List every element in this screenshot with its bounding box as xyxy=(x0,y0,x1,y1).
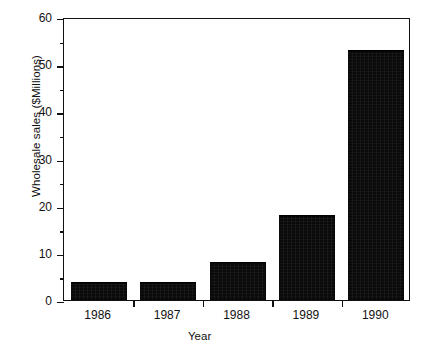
bar: 17.8 xyxy=(279,215,335,300)
bar-value: 17.8 xyxy=(279,216,280,217)
y-tick-mark xyxy=(57,302,64,303)
y-tick-mark xyxy=(60,231,65,232)
x-tick-label: 1986 xyxy=(63,308,133,322)
y-tick-mark xyxy=(60,137,65,138)
y-tick-label: 20 xyxy=(12,200,52,215)
y-tick-label: 60 xyxy=(12,11,52,26)
y-tick-mark xyxy=(60,278,65,279)
bar-value: 52.8 xyxy=(348,51,349,52)
y-tick-mark xyxy=(57,66,64,67)
bar: 7.8 xyxy=(210,262,266,300)
y-tick-label: 50 xyxy=(12,58,52,73)
y-tick-label: 30 xyxy=(12,153,52,168)
y-tick-label: 40 xyxy=(12,105,52,120)
y-tick-label: 0 xyxy=(12,294,52,309)
bar-value: 3.7 xyxy=(71,283,72,284)
bar: 3.7 xyxy=(71,282,127,300)
x-tick-mark xyxy=(133,300,135,307)
bar: 52.8 xyxy=(348,50,404,300)
y-tick-mark xyxy=(57,19,64,20)
x-tick-label: 1987 xyxy=(132,308,202,322)
y-tick-mark xyxy=(57,208,64,209)
x-tick-label: 1988 xyxy=(202,308,272,322)
x-axis-title: Year xyxy=(188,330,211,342)
x-tick-label: 1990 xyxy=(340,308,410,322)
y-tick-mark xyxy=(57,161,64,162)
y-tick-mark xyxy=(57,113,64,114)
y-tick-label: 10 xyxy=(12,247,52,262)
y-tick-mark xyxy=(57,255,64,256)
y-tick-mark xyxy=(60,90,65,91)
x-tick-mark xyxy=(272,300,274,307)
bar-value: 7.8 xyxy=(210,263,211,264)
x-tick-label: 1989 xyxy=(271,308,341,322)
y-tick-mark xyxy=(60,184,65,185)
bar-value: 3.7 xyxy=(140,283,141,284)
bar-chart: Wholesale sales ($Millions) 010203040506… xyxy=(0,0,428,352)
bar: 3.7 xyxy=(140,282,196,300)
plot-area: 01020304050603.73.77.817.852.8 xyxy=(63,18,410,301)
x-tick-mark xyxy=(342,300,344,307)
x-tick-mark xyxy=(203,300,205,307)
y-tick-mark xyxy=(60,43,65,44)
